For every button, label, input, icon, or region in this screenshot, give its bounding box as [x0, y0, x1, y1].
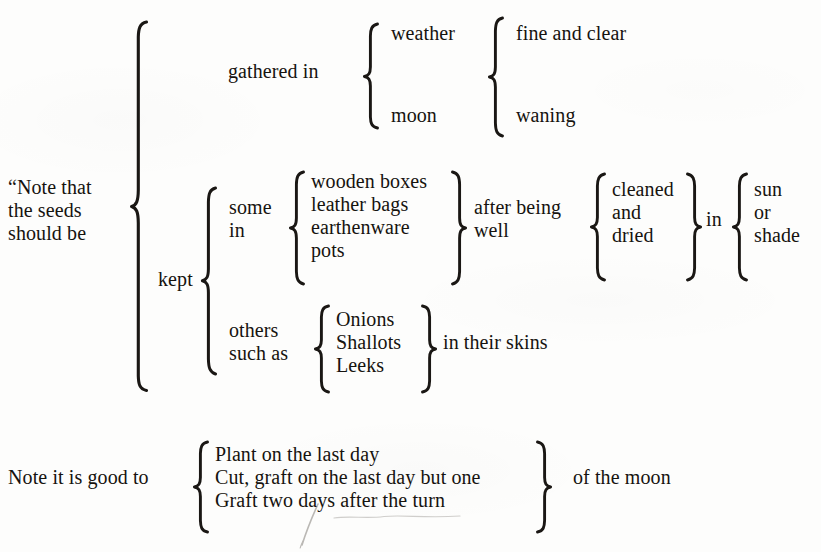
- container-item-4: pots: [311, 239, 345, 262]
- footnote-instruction-1: Plant on the last day: [215, 443, 379, 466]
- footnote-close-brace: [533, 440, 553, 536]
- kept-brace: [200, 186, 220, 384]
- scanned-page: “Note that the seeds should be gathered …: [0, 0, 821, 552]
- footnote-trailer: of the moon: [573, 466, 671, 489]
- footnote-instruction-2: Cut, graft on the last day but one: [215, 466, 481, 489]
- after-being-well-label: after being well: [474, 196, 561, 242]
- examples-suffix: in their skins: [443, 331, 548, 354]
- example-item-2: Shallots: [336, 331, 401, 354]
- place-preposition-in: in: [706, 208, 722, 231]
- treatment-item-1: cleaned: [612, 178, 674, 201]
- underline-smudge: [332, 512, 462, 522]
- treatment-item-2: and: [612, 201, 641, 224]
- place-item-3: shade: [754, 224, 800, 247]
- examples-open-brace: [313, 304, 333, 396]
- gathered-qualifier-moon: waning: [516, 104, 575, 127]
- place-item-1: sun: [754, 178, 782, 201]
- container-item-3: earthenware: [311, 216, 410, 239]
- root-brace: [129, 20, 151, 392]
- container-item-2: leather bags: [311, 193, 408, 216]
- gathered-qualifier-brace: [487, 16, 507, 138]
- root-label: “Note that the seeds should be: [8, 176, 92, 245]
- footnote-instruction-3: Graft two days after the turn: [215, 489, 445, 512]
- treatments-open-brace: [589, 172, 609, 282]
- container-item-1: wooden boxes: [311, 170, 427, 193]
- gathered-brace: [362, 22, 382, 130]
- gathered-in-label: gathered in: [228, 60, 319, 83]
- kept-group-some-label: some in: [229, 196, 272, 242]
- containers-open-brace: [288, 170, 308, 286]
- footnote-open-brace: [192, 440, 212, 536]
- containers-close-brace: [448, 170, 468, 286]
- kept-label: kept: [158, 268, 193, 291]
- footnote-lead-in: Note it is good to: [8, 466, 149, 489]
- gathered-qualifier-weather: fine and clear: [516, 22, 626, 45]
- kept-group-others-label: others such as: [229, 319, 288, 365]
- treatments-close-brace: [683, 172, 703, 282]
- examples-close-brace: [418, 304, 438, 396]
- gathered-item-moon: moon: [391, 104, 437, 127]
- place-item-2: or: [754, 201, 771, 224]
- places-brace: [731, 172, 751, 282]
- example-item-1: Onions: [336, 308, 394, 331]
- treatment-item-3: dried: [612, 224, 654, 247]
- example-item-3: Leeks: [336, 354, 384, 377]
- gathered-item-weather: weather: [391, 22, 455, 45]
